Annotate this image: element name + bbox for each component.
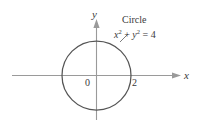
plot-canvas [0, 0, 201, 133]
x-axis-arrowhead [172, 72, 181, 78]
x-intercept-tick-label: 2 [132, 78, 137, 88]
curve-title-label: Circle [122, 15, 146, 25]
y-axis-arrowhead [93, 19, 99, 28]
equation-equals-operator: = [140, 29, 151, 40]
x-axis-label: x [184, 70, 189, 81]
equation-plus-operator: + [122, 29, 133, 40]
equation-right-side: 4 [151, 29, 156, 40]
origin-label: 0 [85, 78, 90, 88]
circle-graph-figure: x y 0 2 Circle x2 + y2 = 4 [0, 0, 201, 133]
y-axis-label: y [92, 9, 97, 20]
curve-equation-label: x2 + y2 = 4 [114, 30, 156, 40]
